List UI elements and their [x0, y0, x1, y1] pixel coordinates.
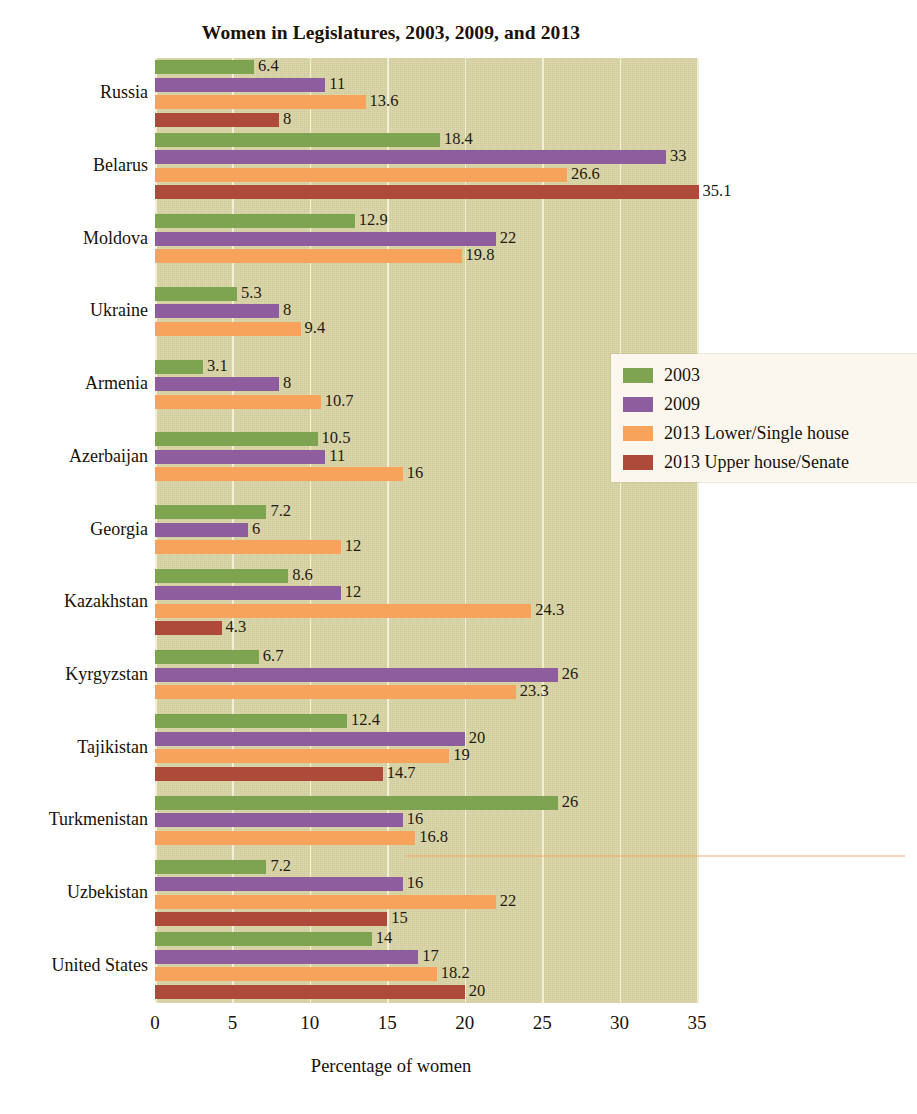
y-axis-label-ukraine: Ukraine — [0, 300, 148, 321]
bar-value-label: 26 — [562, 795, 579, 809]
bar — [155, 569, 288, 583]
y-axis-label-turkmenistan: Turkmenistan — [0, 809, 148, 830]
bar — [155, 540, 341, 554]
bar — [155, 450, 325, 464]
bar-value-label: 35.1 — [703, 184, 732, 198]
bar-value-label: 6.7 — [263, 649, 284, 663]
bar — [155, 214, 355, 228]
bar — [155, 650, 259, 664]
legend-label: 2013 Upper house/Senate — [664, 452, 849, 473]
bar-value-label: 16 — [407, 466, 424, 480]
gridline-35 — [697, 58, 699, 1003]
bar-value-label: 18.4 — [444, 132, 473, 146]
bar-value-label: 8 — [283, 303, 291, 317]
legend-swatch-icon — [623, 397, 653, 412]
y-axis-label-armenia: Armenia — [0, 373, 148, 394]
bar-value-label: 23.3 — [520, 684, 549, 698]
legend-swatch-icon — [623, 368, 653, 383]
bar-value-label: 16 — [407, 876, 424, 890]
bar-value-label: 3.1 — [207, 359, 228, 373]
bar — [155, 168, 567, 182]
bar — [155, 133, 440, 147]
bar-value-label: 16 — [407, 812, 424, 826]
bar — [155, 322, 301, 336]
bar-value-label: 26.6 — [571, 167, 600, 181]
bar-value-label: 12.9 — [359, 213, 388, 227]
bar — [155, 232, 496, 246]
bar — [155, 287, 237, 301]
bar — [155, 377, 279, 391]
bar — [155, 95, 366, 109]
bar — [155, 877, 403, 891]
bar — [155, 932, 372, 946]
y-axis-label-georgia: Georgia — [0, 519, 148, 540]
bar-value-label: 7.2 — [270, 504, 291, 518]
y-axis-label-tajikistan: Tajikistan — [0, 737, 148, 758]
bar — [155, 912, 387, 926]
bar — [155, 985, 465, 999]
bar — [155, 78, 325, 92]
bar — [155, 895, 496, 909]
bar — [155, 586, 341, 600]
bar — [155, 523, 248, 537]
x-axis-title: Percentage of women — [0, 1056, 782, 1077]
y-axis-label-kyrgyzstan: Kyrgyzstan — [0, 664, 148, 685]
legend-item: 2013 Lower/Single house — [623, 420, 849, 446]
bar-value-label: 12 — [345, 585, 362, 599]
y-axis-labels: RussiaBelarusMoldovaUkraineArmeniaAzerba… — [0, 58, 148, 1003]
x-tick-label-10: 10 — [300, 1012, 319, 1034]
legend-label: 2009 — [664, 394, 700, 415]
chart-legend: 200320092013 Lower/Single house2013 Uppe… — [611, 354, 917, 482]
legend-swatch-icon — [623, 455, 653, 470]
y-axis-label-kazakhstan: Kazakhstan — [0, 591, 148, 612]
legend-label: 2013 Lower/Single house — [664, 423, 849, 444]
bar-value-label: 12 — [345, 539, 362, 553]
bar — [155, 831, 415, 845]
bar-value-label: 6 — [252, 522, 260, 536]
bar — [155, 360, 203, 374]
legend-label: 2003 — [664, 365, 700, 386]
bar — [155, 813, 403, 827]
x-tick-label-25: 25 — [533, 1012, 552, 1034]
gridline-15 — [387, 58, 389, 1003]
bar — [155, 860, 266, 874]
bar — [155, 796, 558, 810]
bar-value-label: 22 — [500, 894, 517, 908]
bar-value-label: 19.8 — [466, 248, 495, 262]
x-tick-label-15: 15 — [378, 1012, 397, 1034]
bar-value-label: 16.8 — [419, 830, 448, 844]
bar — [155, 395, 321, 409]
bar-value-label: 15 — [391, 911, 408, 925]
bar — [155, 249, 462, 263]
y-axis-label-moldova: Moldova — [0, 228, 148, 249]
bar — [155, 432, 318, 446]
bar-value-label: 18.2 — [441, 966, 470, 980]
bar-value-label: 19 — [453, 748, 470, 762]
bar — [155, 150, 666, 164]
bar-value-label: 11 — [329, 77, 345, 91]
y-axis-label-uzbekistan: Uzbekistan — [0, 882, 148, 903]
bar-value-label: 12.4 — [351, 713, 380, 727]
bar — [155, 950, 418, 964]
y-axis-label-azerbaijan: Azerbaijan — [0, 446, 148, 467]
bar — [155, 467, 403, 481]
bar-value-label: 8 — [283, 376, 291, 390]
bar-value-label: 26 — [562, 667, 579, 681]
scan-artifact — [405, 855, 905, 857]
bar — [155, 304, 279, 318]
x-axis-ticks: 05101520253035 — [155, 1012, 697, 1042]
x-tick-label-5: 5 — [228, 1012, 238, 1034]
bar-value-label: 6.4 — [258, 59, 279, 73]
legend-item: 2009 — [623, 391, 700, 417]
bar — [155, 767, 383, 781]
bar-value-label: 17 — [422, 949, 439, 963]
bar — [155, 60, 254, 74]
gridline-25 — [542, 58, 544, 1003]
gridline-20 — [465, 58, 467, 1003]
x-tick-label-0: 0 — [150, 1012, 160, 1034]
bar — [155, 732, 465, 746]
x-tick-label-20: 20 — [455, 1012, 474, 1034]
bar-value-label: 8.6 — [292, 568, 313, 582]
bar — [155, 967, 437, 981]
